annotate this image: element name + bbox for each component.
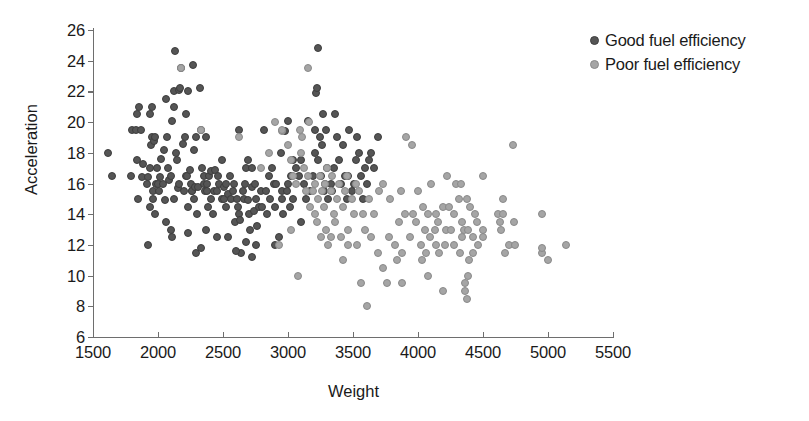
data-point-good [155,187,163,195]
y-tick-label: 24 [53,53,85,70]
data-point-good [242,238,250,246]
x-tick-label: 2500 [193,344,253,361]
data-point-poor [370,210,378,218]
data-point-poor [300,164,308,172]
data-point-poor [474,241,482,249]
data-point-good [250,207,258,215]
data-point-good [245,210,253,218]
data-point-poor [499,210,507,218]
x-tick-label: 5000 [518,344,578,361]
data-point-good [186,166,194,174]
data-point-poor [386,195,394,203]
data-point-poor [463,295,471,303]
data-point-poor [324,241,332,249]
data-point-good [191,183,199,191]
data-point-good [281,127,289,135]
data-point-good [182,172,190,180]
data-point-good [157,155,165,163]
data-point-poor [424,210,432,218]
data-point-good [370,164,378,172]
y-tick-label: 8 [53,298,85,315]
data-point-good [144,241,152,249]
data-point-good [181,133,189,141]
data-point-poor [465,256,473,264]
data-point-good [203,180,211,188]
data-point-poor [265,149,273,157]
data-point-poor [383,279,391,287]
scatter-chart: 68101214161820222426 1500200025003000350… [0,0,809,421]
data-point-good [337,180,345,188]
data-point-poor [289,172,297,180]
data-point-poor [339,203,347,211]
data-point-good [175,86,183,94]
data-point-good [184,229,192,237]
data-point-good [170,195,178,203]
data-point-good [134,195,142,203]
data-point-poor [363,302,371,310]
data-point-poor [562,241,570,249]
data-point-poor [311,210,319,218]
data-point-good [277,149,285,157]
data-point-poor [450,210,458,218]
y-tick-label: 12 [53,237,85,254]
data-point-good [363,180,371,188]
data-point-poor [452,180,460,188]
data-point-poor [275,241,283,249]
data-point-poor [304,172,312,180]
data-point-poor [287,156,295,164]
data-point-good [147,141,155,149]
y-tick-label: 22 [53,83,85,100]
data-point-poor [442,226,450,234]
data-point-poor [426,233,434,241]
data-point-poor [424,272,432,280]
data-point-good [194,183,202,191]
data-point-good [306,187,314,195]
data-point-poor [320,203,328,211]
data-point-poor [427,180,435,188]
data-point-good [248,253,256,261]
legend-entry-good[interactable]: Good fuel efficiency [590,28,805,52]
legend-entry-poor[interactable]: Poor fuel efficiency [590,52,805,76]
data-point-good [128,126,136,134]
data-point-good [205,172,213,180]
y-tick-label: 18 [53,145,85,162]
data-point-poor [445,203,453,211]
data-point-poor [434,218,442,226]
data-point-good [146,110,154,118]
data-point-good [248,183,256,191]
y-tick-mark [88,30,93,31]
data-point-good [297,218,305,226]
data-point-good [297,156,305,164]
data-point-poor [409,210,417,218]
data-point-poor [257,164,265,172]
data-point-good [252,241,260,249]
data-point-poor [391,241,399,249]
data-point-good [222,203,230,211]
data-point-poor [379,264,387,272]
data-point-good [163,133,171,141]
data-point-good [149,195,157,203]
data-point-good [263,210,271,218]
data-point-poor [327,187,335,195]
data-point-good [335,156,343,164]
data-point-poor [460,226,468,234]
data-point-poor [323,164,331,172]
data-point-poor [511,241,519,249]
data-point-poor [464,226,472,234]
data-point-poor [305,118,313,126]
data-point-poor [313,218,321,226]
data-point-good [248,164,256,172]
data-point-poor [287,226,295,234]
data-point-poor [365,195,373,203]
data-point-good [168,117,176,125]
data-point-poor [398,279,406,287]
y-tick-label: 16 [53,176,85,193]
data-point-poor [367,233,375,241]
data-point-good [322,126,330,134]
data-point-good [286,203,294,211]
data-point-poor [479,172,487,180]
data-point-good [176,84,184,92]
data-point-poor [419,203,427,211]
data-point-good [272,180,280,188]
data-point-good [200,172,208,180]
